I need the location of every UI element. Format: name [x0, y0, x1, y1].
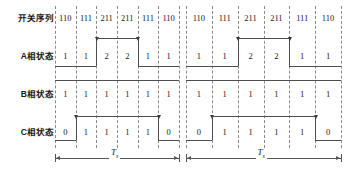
switching-code-0-4: 111: [138, 13, 159, 23]
phase-a-value-1-3: 2: [264, 51, 290, 61]
switching-code-0-2: 211: [96, 13, 117, 23]
phase-c-falling-marker-1: [314, 115, 318, 119]
phase-c-waveform-high-0: [76, 116, 159, 117]
phase-c-waveform-low-right-1: [315, 140, 341, 141]
ts-arrow-right-0: [174, 156, 178, 160]
ts-arrow-left-1: [187, 156, 191, 160]
switching-code-0-3: 211: [117, 13, 138, 23]
phase-b-value-1-2: 1: [238, 89, 264, 99]
phase-b-value-1-3: 1: [264, 89, 290, 99]
row-label-phase-b: B相状态: [0, 89, 54, 99]
row-label-switching-sequence: 开关序列: [0, 13, 54, 23]
switching-code-0-1: 111: [76, 13, 97, 23]
phase-c-waveform-rising-edge-0: [76, 116, 77, 140]
phase-a-waveform-falling-edge-1: [289, 38, 290, 66]
phase-b-value-0-4: 1: [138, 89, 159, 99]
phase-a-falling-marker-0: [136, 37, 140, 41]
phase-c-value-0-5: 0: [158, 127, 179, 137]
phase-c-value-0-1: 1: [76, 127, 97, 137]
switching-code-0-5: 110: [158, 13, 179, 23]
phase-c-value-0-2: 1: [96, 127, 117, 137]
phase-a-value-1-2: 2: [238, 51, 264, 61]
phase-c-falling-marker-0: [157, 115, 161, 119]
phase-c-waveform-falling-edge-1: [315, 116, 316, 140]
phase-a-waveform-low-left-1: [186, 66, 238, 67]
ts-period-label-1: Ts: [256, 148, 267, 161]
switching-code-0-0: 110: [55, 13, 76, 23]
phase-b-waveform-flat-1: [186, 80, 341, 81]
phase-a-falling-marker-1: [288, 37, 292, 41]
phase-c-waveform-low-left-0: [55, 140, 76, 141]
ts-arrow-right-1: [336, 156, 340, 160]
phase-c-value-1-4: 1: [289, 127, 315, 137]
phase-a-value-1-0: 1: [186, 51, 212, 61]
cell-separator-0-6: [179, 6, 180, 148]
phase-b-value-0-2: 1: [96, 89, 117, 99]
phase-a-value-1-4: 1: [289, 51, 315, 61]
phase-c-value-0-0: 0: [55, 127, 76, 137]
row-label-phase-a: A相状态: [0, 51, 54, 61]
row-label-phase-c: C相状态: [0, 127, 54, 137]
phase-c-waveform-low-right-0: [158, 140, 179, 141]
phase-a-waveform-falling-edge-0: [138, 38, 139, 66]
phase-a-waveform-high-0: [96, 38, 137, 39]
switching-code-1-1: 111: [212, 13, 238, 23]
phase-c-value-0-3: 1: [117, 127, 138, 137]
switching-code-1-5: 110: [315, 13, 341, 23]
ts-period-subscript-1: s: [263, 153, 265, 159]
phase-c-value-1-1: 1: [212, 127, 238, 137]
phase-b-waveform-flat-0: [55, 80, 179, 81]
cell-separator-1-6: [341, 6, 342, 148]
phase-a-waveform-low-right-0: [138, 66, 179, 67]
phase-a-value-0-4: 1: [138, 51, 159, 61]
phase-c-value-1-0: 0: [186, 127, 212, 137]
phase-b-value-0-0: 1: [55, 89, 76, 99]
switching-code-1-3: 211: [264, 13, 290, 23]
phase-b-value-0-5: 1: [158, 89, 179, 99]
phase-b-value-1-1: 1: [212, 89, 238, 99]
phase-a-value-0-2: 2: [96, 51, 117, 61]
switching-code-1-4: 111: [289, 13, 315, 23]
phase-b-value-0-1: 1: [76, 89, 97, 99]
phase-a-waveform-low-right-1: [289, 66, 341, 67]
phase-a-waveform-low-left-0: [55, 66, 96, 67]
phase-a-value-0-0: 1: [55, 51, 76, 61]
timing-diagram-figure: 开关序列 A相状态 B相状态 C相状态 11011121121111111011…: [0, 0, 348, 171]
phase-c-waveform-high-1: [212, 116, 315, 117]
switching-code-1-0: 110: [186, 13, 212, 23]
phase-c-value-0-4: 1: [138, 127, 159, 137]
phase-b-value-0-3: 1: [117, 89, 138, 99]
ts-cap-right-0: [179, 154, 180, 162]
phase-b-value-1-5: 1: [315, 89, 341, 99]
phase-a-value-1-1: 1: [212, 51, 238, 61]
ts-period-subscript-0: s: [116, 153, 118, 159]
phase-c-waveform-rising-edge-1: [212, 116, 213, 140]
phase-c-value-1-3: 1: [264, 127, 290, 137]
phase-a-waveform-high-1: [238, 38, 290, 39]
phase-a-value-0-5: 1: [158, 51, 179, 61]
phase-b-value-1-0: 1: [186, 89, 212, 99]
ts-arrow-left-0: [56, 156, 60, 160]
ts-period-label-0: Ts: [109, 148, 120, 161]
phase-a-value-0-3: 2: [117, 51, 138, 61]
ts-cap-right-1: [341, 154, 342, 162]
phase-a-waveform-rising-edge-0: [96, 38, 97, 66]
phase-c-value-1-2: 1: [238, 127, 264, 137]
phase-b-value-1-4: 1: [289, 89, 315, 99]
phase-c-waveform-falling-edge-0: [158, 116, 159, 140]
phase-a-value-1-5: 1: [315, 51, 341, 61]
switching-code-1-2: 211: [238, 13, 264, 23]
phase-a-value-0-1: 1: [76, 51, 97, 61]
phase-c-waveform-low-left-1: [186, 140, 212, 141]
phase-c-value-1-5: 0: [315, 127, 341, 137]
phase-a-waveform-rising-edge-1: [238, 38, 239, 66]
